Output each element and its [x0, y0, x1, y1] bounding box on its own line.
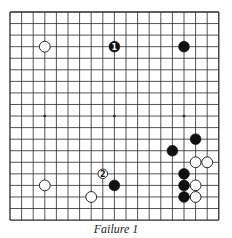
white-stone — [190, 180, 201, 191]
black-stone-1: 1 — [109, 41, 120, 52]
star-point — [183, 115, 186, 118]
stone-disc — [202, 157, 213, 168]
star-point — [43, 115, 46, 118]
black-stone — [179, 41, 190, 52]
stone-disc — [86, 192, 97, 203]
stone-move-number: 2 — [100, 170, 106, 179]
black-stone — [179, 192, 190, 203]
white-stone — [202, 157, 213, 168]
stone-disc — [39, 41, 50, 52]
black-stone — [190, 134, 201, 145]
black-stone — [109, 180, 120, 191]
stone-disc — [179, 168, 190, 179]
black-stone — [179, 180, 190, 191]
stone-disc — [167, 145, 178, 156]
white-stone — [190, 192, 201, 203]
stone-disc — [179, 41, 190, 52]
stone-disc — [190, 134, 201, 145]
stone-disc — [179, 180, 190, 191]
white-stone — [39, 180, 50, 191]
stone-disc — [190, 157, 201, 168]
stone-disc — [190, 180, 201, 191]
white-stone — [86, 192, 97, 203]
white-stone — [39, 41, 50, 52]
stone-disc — [109, 180, 120, 191]
stone-move-number: 1 — [112, 43, 118, 52]
white-stone — [190, 157, 201, 168]
stone-disc — [190, 192, 201, 203]
black-stone — [167, 145, 178, 156]
go-board: 12 — [0, 0, 232, 224]
stone-disc — [39, 180, 50, 191]
diagram-caption: Failure 1 — [0, 222, 232, 236]
star-point — [113, 115, 116, 118]
white-stone-2: 2 — [98, 169, 108, 179]
black-stone — [179, 168, 190, 179]
stone-disc — [179, 192, 190, 203]
